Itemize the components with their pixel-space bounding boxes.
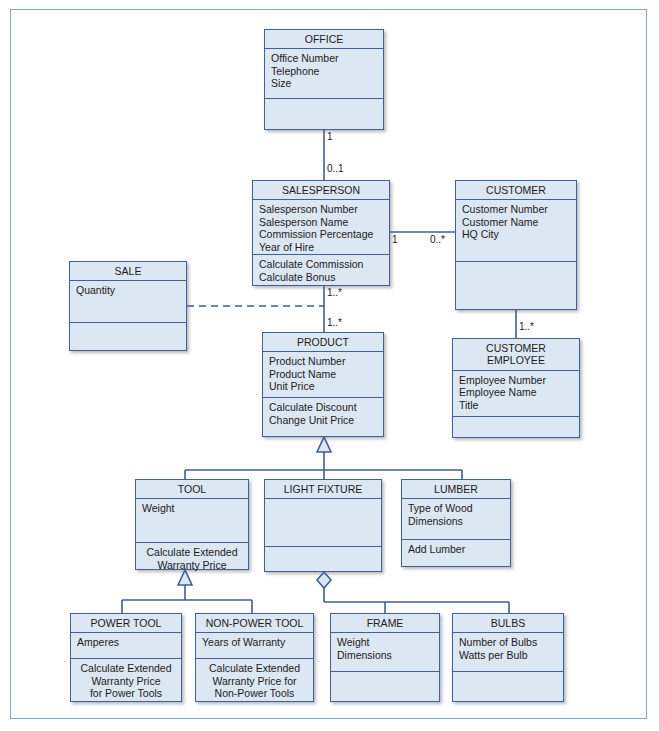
class-light-fixture-operations bbox=[265, 547, 381, 572]
class-office[interactable]: OFFICE Office Number Telephone Size bbox=[264, 29, 384, 130]
class-customer-employee-operations bbox=[453, 417, 579, 439]
multiplicity-customer-salesperson-end: 0..* bbox=[430, 234, 445, 245]
multiplicity-salesperson-office-end: 0..1 bbox=[327, 163, 344, 174]
class-salesperson-attributes: Salesperson Number Salesperson Name Comm… bbox=[253, 200, 389, 255]
class-salesperson-operations: Calculate Commission Calculate Bonus bbox=[253, 255, 389, 285]
multiplicity-salesperson-product-end: 1..* bbox=[327, 287, 342, 298]
class-sale-name: SALE bbox=[70, 262, 186, 281]
class-sale-attributes: Quantity bbox=[70, 281, 186, 323]
generalization-arrow-tool bbox=[178, 570, 192, 585]
class-power-tool-attributes: Amperes bbox=[71, 633, 181, 659]
class-office-attributes: Office Number Telephone Size bbox=[265, 49, 383, 99]
class-light-fixture-attributes bbox=[265, 499, 381, 547]
class-product-attributes: Product Number Product Name Unit Price bbox=[263, 352, 383, 398]
class-customer-employee-name: CUSTOMER EMPLOYEE bbox=[453, 339, 579, 371]
class-sale[interactable]: SALE Quantity bbox=[69, 261, 187, 351]
class-bulbs[interactable]: BULBS Number of Bulbs Watts per Bulb bbox=[452, 613, 564, 702]
class-office-name: OFFICE bbox=[265, 30, 383, 49]
class-non-power-tool-attributes: Years of Warranty bbox=[196, 633, 313, 659]
class-non-power-tool-name: NON-POWER TOOL bbox=[196, 614, 313, 633]
class-tool-name: TOOL bbox=[136, 480, 248, 499]
uml-class-diagram-page: 1 0..1 1 0..* 1..* 1..* 1 1..* OFFICE Of… bbox=[0, 0, 659, 731]
class-customer-employee-attributes: Employee Number Employee Name Title bbox=[453, 371, 579, 417]
class-lumber-attributes: Type of Wood Dimensions bbox=[402, 499, 510, 540]
class-salesperson-name: SALESPERSON bbox=[253, 181, 389, 200]
class-power-tool-operations: Calculate Extended Warranty Price for Po… bbox=[71, 659, 181, 701]
class-frame-attributes: Weight Dimensions bbox=[331, 633, 439, 672]
multiplicity-office-end: 1 bbox=[327, 131, 333, 142]
class-frame-name: FRAME bbox=[331, 614, 439, 633]
class-customer[interactable]: CUSTOMER Customer Number Customer Name H… bbox=[455, 180, 577, 310]
class-tool[interactable]: TOOL Weight Calculate Extended Warranty … bbox=[135, 479, 249, 570]
class-light-fixture[interactable]: LIGHT FIXTURE bbox=[264, 479, 382, 572]
class-salesperson[interactable]: SALESPERSON Salesperson Number Salespers… bbox=[252, 180, 390, 286]
class-customer-operations bbox=[456, 262, 576, 310]
class-sale-operations bbox=[70, 323, 186, 352]
class-non-power-tool[interactable]: NON-POWER TOOL Years of Warranty Calcula… bbox=[195, 613, 314, 702]
class-power-tool[interactable]: POWER TOOL Amperes Calculate Extended Wa… bbox=[70, 613, 182, 702]
class-lumber[interactable]: LUMBER Type of Wood Dimensions Add Lumbe… bbox=[401, 479, 511, 567]
multiplicity-product-salesperson-end: 1..* bbox=[327, 317, 342, 328]
class-lumber-name: LUMBER bbox=[402, 480, 510, 499]
class-customer-employee[interactable]: CUSTOMER EMPLOYEE Employee Number Employ… bbox=[452, 338, 580, 438]
class-product[interactable]: PRODUCT Product Number Product Name Unit… bbox=[262, 332, 384, 437]
class-tool-attributes: Weight bbox=[136, 499, 248, 543]
class-light-fixture-name: LIGHT FIXTURE bbox=[265, 480, 381, 499]
class-frame[interactable]: FRAME Weight Dimensions bbox=[330, 613, 440, 702]
class-bulbs-attributes: Number of Bulbs Watts per Bulb bbox=[453, 633, 563, 672]
aggregation-diamond-light-fixture bbox=[317, 572, 331, 588]
class-customer-name: CUSTOMER bbox=[456, 181, 576, 200]
class-power-tool-name: POWER TOOL bbox=[71, 614, 181, 633]
class-product-operations: Calculate Discount Change Unit Price bbox=[263, 398, 383, 437]
class-non-power-tool-operations: Calculate Extended Warranty Price for No… bbox=[196, 659, 313, 701]
class-frame-operations bbox=[331, 672, 439, 701]
class-bulbs-operations bbox=[453, 672, 563, 701]
class-customer-attributes: Customer Number Customer Name HQ City bbox=[456, 200, 576, 262]
class-office-operations bbox=[265, 99, 383, 130]
class-product-name: PRODUCT bbox=[263, 333, 383, 352]
class-lumber-operations: Add Lumber bbox=[402, 540, 510, 566]
multiplicity-salesperson-customer-end: 1 bbox=[392, 234, 398, 245]
generalization-arrow-product bbox=[317, 437, 331, 452]
class-bulbs-name: BULBS bbox=[453, 614, 563, 633]
multiplicity-customer-employee-employee-end: 1..* bbox=[519, 321, 534, 332]
class-tool-operations: Calculate Extended Warranty Price bbox=[136, 543, 248, 570]
